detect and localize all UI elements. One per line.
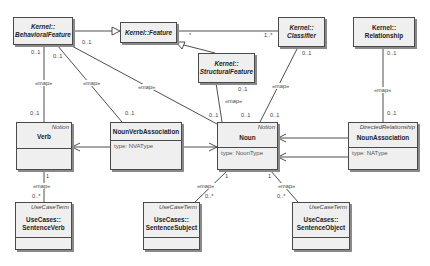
multiplicity-label: 0..1 [270, 112, 279, 118]
class-name: SentenceVerb [22, 224, 64, 232]
class-name: NounVerbAssociation [113, 128, 179, 136]
multiplicity-label: 0..1 [241, 112, 250, 118]
class-sentence-subject[interactable]: UseCaseTerm UseCases:: SentenceSubject [143, 202, 200, 250]
multiplicity-label: 0..1 [53, 53, 62, 59]
map-stereotype-label: «map» [34, 80, 53, 86]
class-noun-association[interactable]: DirectedRelationship NounAssociation typ… [348, 122, 418, 170]
multiplicity-label: 0..* [205, 193, 213, 199]
multiplicity-label: 0..1 [82, 39, 91, 45]
map-stereotype-label: «map» [373, 87, 392, 93]
stereotype-label: Notion [258, 124, 275, 130]
multiplicity-label: 1 [268, 173, 271, 179]
class-package: UseCases:: [304, 216, 339, 224]
attribute-compartment [144, 237, 199, 250]
map-stereotype-label: «map» [277, 183, 296, 189]
class-name: StructuralFeature [200, 68, 253, 76]
multiplicity-label: 0..1 [30, 110, 39, 116]
stereotype-label: DirectedRelationship [360, 124, 415, 130]
attribute: type: NAType [352, 150, 388, 156]
stereotype-label: UseCaseTerm [159, 204, 197, 210]
multiplicity-label: * [189, 32, 191, 38]
map-stereotype-label: «map» [137, 84, 156, 90]
class-name: Relationship [365, 32, 403, 40]
class-classifier[interactable]: Kernel:: Classifier [278, 17, 325, 47]
multiplicity-label: 0..1 [387, 110, 396, 116]
stereotype-label: UseCaseTerm [31, 204, 69, 210]
multiplicity-label: 0..1 [209, 112, 218, 118]
multiplicity-label: 0..1 [31, 49, 40, 55]
class-sentence-object[interactable]: UseCaseTerm UseCases:: SentenceObject [292, 202, 350, 250]
multiplicity-label: 0..1 [125, 110, 134, 116]
map-stereotype-label: «map» [82, 80, 101, 86]
class-name: Kernel::Feature [125, 29, 172, 37]
attribute-compartment [293, 237, 349, 250]
class-package: Kernel:: [372, 24, 396, 32]
attribute: type: NounType [221, 150, 263, 156]
multiplicity-label: 0..1 [238, 86, 247, 92]
class-structural-feature[interactable]: Kernel:: StructuralFeature [198, 53, 255, 83]
class-package: Kernel:: [289, 24, 313, 32]
multiplicity-label: 1 [225, 173, 228, 179]
class-name: Classifier [287, 32, 316, 40]
map-stereotype-label: «map» [271, 83, 290, 89]
class-noun[interactable]: Notion Noun type: NounType [217, 122, 278, 170]
attribute: type: NVAType [114, 143, 153, 149]
multiplicity-label: 0..1 [387, 50, 396, 56]
attribute-compartment: type: NounType [218, 147, 277, 170]
class-name: NounAssociation [357, 134, 410, 142]
multiplicity-label: 1 [46, 173, 49, 179]
multiplicity-label: 0..* [32, 193, 40, 199]
class-behavioral-feature[interactable]: Kernel:: BehavioralFeature [13, 17, 73, 45]
class-feature[interactable]: Kernel::Feature [120, 22, 177, 43]
multiplicity-label: 0..1 [302, 50, 311, 56]
attribute-compartment [16, 237, 71, 250]
class-package: Kernel:: [214, 60, 238, 68]
multiplicity-label: 1..* [264, 32, 272, 38]
stereotype-label: Notion [52, 124, 69, 130]
class-name: Noun [239, 134, 255, 142]
class-name: SentenceObject [297, 224, 345, 232]
stereotype-label: UseCaseTerm [309, 204, 347, 210]
class-name: Verb [37, 133, 51, 141]
attribute-compartment: type: NAType [349, 147, 417, 170]
multiplicity-label: 0..* [277, 193, 285, 199]
class-relationship[interactable]: Kernel:: Relationship [353, 17, 415, 47]
class-sentence-verb[interactable]: UseCaseTerm UseCases:: SentenceVerb [15, 202, 72, 250]
class-name: BehavioralFeature [15, 31, 71, 39]
class-package: UseCases:: [26, 216, 61, 224]
map-stereotype-label: «map» [224, 98, 243, 104]
map-stereotype-label: «map» [196, 183, 215, 189]
class-package: Kernel:: [31, 23, 55, 31]
attribute-compartment: type: NVAType [111, 140, 181, 170]
class-name: SentenceSubject [146, 224, 198, 232]
map-stereotype-label: «map» [32, 183, 51, 189]
class-verb[interactable]: Notion Verb [16, 122, 72, 170]
class-package: UseCases:: [154, 216, 189, 224]
class-noun-verb-association[interactable]: NounVerbAssociation type: NVAType [110, 122, 182, 170]
attribute-compartment [17, 148, 71, 170]
